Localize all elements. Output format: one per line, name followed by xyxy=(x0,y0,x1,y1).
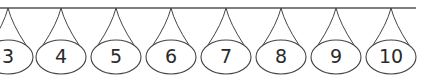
number-label: 5 xyxy=(90,47,142,66)
number-label: 3 xyxy=(0,47,34,66)
number-label: 9 xyxy=(310,47,362,66)
number-label: 8 xyxy=(255,47,307,66)
hanger-string xyxy=(0,8,26,45)
number-label: 6 xyxy=(145,47,197,66)
number-hanger-diagram: 345678910 xyxy=(0,0,428,79)
diagram-canvas xyxy=(0,0,428,79)
number-label: 4 xyxy=(35,47,87,66)
number-label: 10 xyxy=(365,47,417,66)
number-label: 7 xyxy=(200,47,252,66)
